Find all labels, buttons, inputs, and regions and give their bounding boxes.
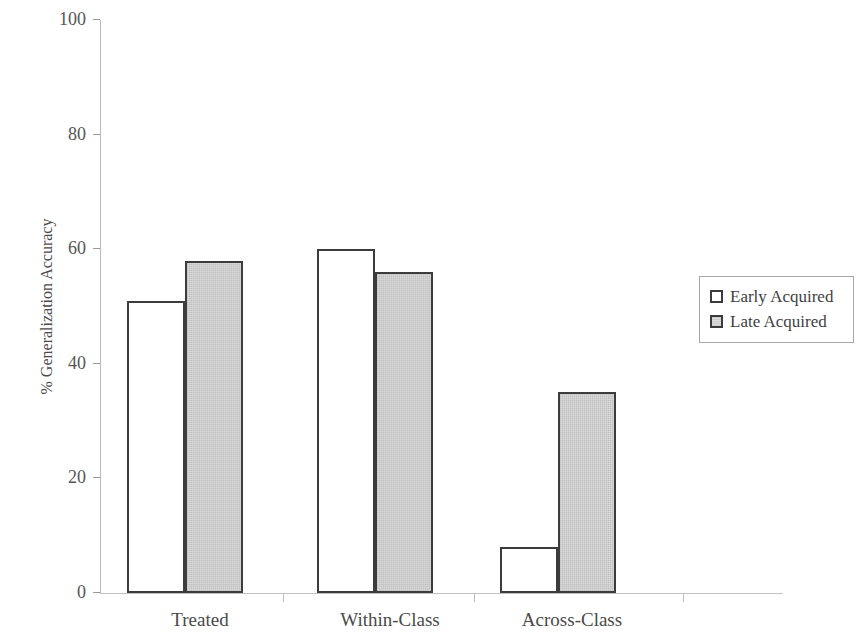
y-tick-mark-80 xyxy=(93,134,100,135)
bar-chart-figure: 0 20 40 60 80 100 % Generalization Accur… xyxy=(0,0,865,642)
gray-square-icon xyxy=(710,315,723,328)
x-axis-label-across-class: Across-Class xyxy=(522,607,622,633)
x-axis-line xyxy=(100,593,783,594)
y-tick-label-40: 40 xyxy=(68,352,86,374)
y-tick-label-100: 100 xyxy=(59,8,86,30)
legend: Early Acquired Late Acquired xyxy=(699,276,854,343)
bar-treated-late-acquired xyxy=(185,261,243,593)
plot-area xyxy=(100,20,683,593)
bar-within-class-early-acquired xyxy=(317,249,375,593)
legend-label-early-acquired: Early Acquired xyxy=(730,286,833,308)
y-tick-label-20: 20 xyxy=(68,466,86,488)
legend-item-late-acquired[interactable]: Late Acquired xyxy=(710,309,845,334)
x-axis-separator-1 xyxy=(283,594,284,602)
y-tick-mark-20 xyxy=(93,477,100,478)
y-tick-mark-100 xyxy=(93,19,100,20)
white-square-icon xyxy=(710,290,723,303)
y-axis-title: % Generalization Accuracy xyxy=(36,20,58,593)
bar-across-class-late-acquired xyxy=(558,392,616,593)
y-tick-mark-40 xyxy=(93,363,100,364)
bar-treated-early-acquired xyxy=(127,301,185,593)
y-tick-mark-0 xyxy=(93,592,100,593)
bar-within-class-late-acquired xyxy=(375,272,433,593)
y-tick-mark-60 xyxy=(93,248,100,249)
y-tick-label-0: 0 xyxy=(77,581,86,603)
legend-label-late-acquired: Late Acquired xyxy=(730,311,827,333)
x-axis-label-within-class: Within-Class xyxy=(340,607,440,633)
y-tick-label-80: 80 xyxy=(68,123,86,145)
x-axis-separator-2 xyxy=(474,594,475,602)
x-axis-label-treated: Treated xyxy=(171,607,228,633)
bar-across-class-early-acquired xyxy=(500,547,558,593)
y-tick-label-60: 60 xyxy=(68,237,86,259)
x-axis-end-tick xyxy=(683,594,684,602)
legend-item-early-acquired[interactable]: Early Acquired xyxy=(710,284,845,309)
